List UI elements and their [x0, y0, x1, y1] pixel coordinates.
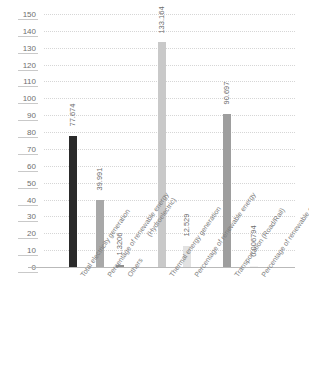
x-axis-labels: Total electricity generationPercentage o… [0, 268, 309, 390]
y-axis-tick-rule [18, 19, 38, 20]
bar-chart: 1501401301201101009080706050403020100 77… [0, 0, 309, 390]
y-axis-tick-rule [18, 171, 38, 172]
bar-value-label: 133.164 [158, 6, 166, 33]
y-axis-tick-label: 90 [27, 111, 36, 120]
bar-group: 77.674 [60, 14, 86, 267]
y-axis-tick-rule [18, 154, 38, 155]
bar-value-label: 12.529 [183, 214, 191, 237]
y-axis-tick-label: 80 [27, 128, 36, 137]
y-axis: 1501401301201101009080706050403020100 [0, 0, 44, 281]
y-axis-tick-label: 110 [23, 77, 36, 86]
y-axis-tick-rule [18, 238, 38, 239]
y-axis-tick-rule [18, 188, 38, 189]
y-axis-tick-rule [18, 86, 38, 87]
y-axis-tick-label: 30 [27, 212, 36, 221]
y-axis-tick-label: 140 [23, 26, 36, 35]
y-axis-tick-rule [18, 255, 38, 256]
y-axis-tick-label: 70 [27, 144, 36, 153]
y-axis-tick-rule [18, 205, 38, 206]
bar-value-label: 77.674 [69, 104, 77, 127]
y-axis-tick-label: 150 [23, 10, 36, 19]
bar-value-label: 90.697 [223, 82, 231, 105]
y-axis-tick-rule [18, 36, 38, 37]
plot-area: 77.67439.9911.3206133.16412.52990.6970.0… [44, 14, 295, 267]
bar[interactable] [69, 136, 77, 267]
y-axis-tick-rule [18, 70, 38, 71]
y-axis-tick-rule [18, 221, 38, 222]
bar-value-label: 39.991 [96, 167, 104, 190]
y-axis-tick-label: 120 [23, 60, 36, 69]
y-axis-tick-label: 40 [27, 195, 36, 204]
bar[interactable] [158, 42, 166, 267]
bar-group: 12.529 [174, 14, 200, 267]
y-axis-tick-rule [18, 120, 38, 121]
y-axis-tick-label: 100 [23, 94, 36, 103]
y-axis-tick-label: 60 [27, 161, 36, 170]
y-axis-tick-rule [18, 103, 38, 104]
y-axis-tick-rule [18, 137, 38, 138]
y-axis-tick-label: 50 [27, 178, 36, 187]
y-axis-tick-label: 10 [27, 246, 36, 255]
y-axis-tick-label: 20 [27, 229, 36, 238]
y-axis-tick-label: 130 [23, 43, 36, 52]
y-axis-tick-rule [18, 53, 38, 54]
